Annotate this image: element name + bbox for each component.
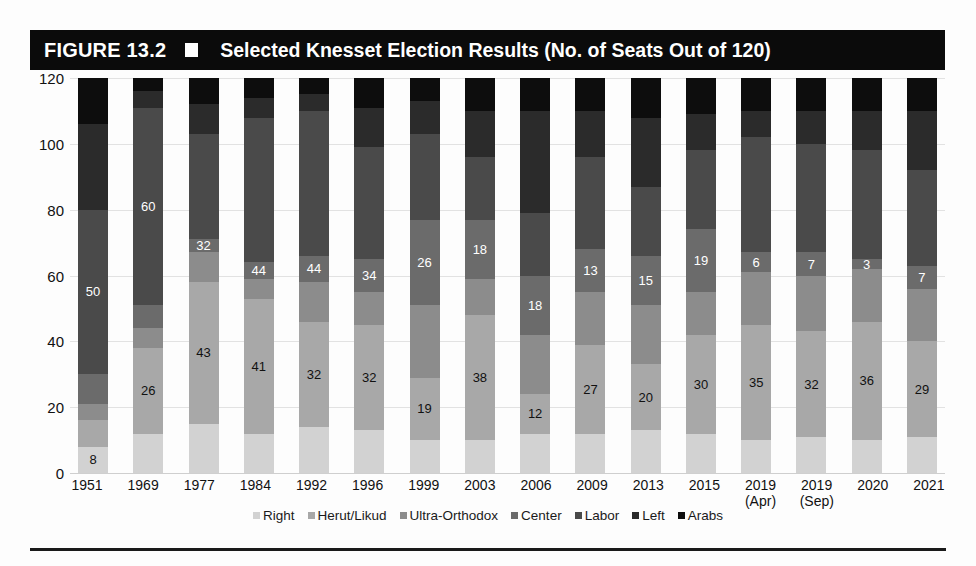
bar-column[interactable]: 729	[905, 78, 939, 473]
bar-segment[interactable]: 50	[78, 210, 108, 375]
bar-column[interactable]: 508	[76, 78, 110, 473]
bar-segment[interactable]: 13	[575, 249, 605, 292]
bar-column[interactable]: 3243	[187, 78, 221, 473]
bar-segment[interactable]	[631, 78, 661, 118]
bar-segment[interactable]: 18	[520, 276, 550, 335]
bar-segment[interactable]	[299, 78, 329, 94]
bar-segment[interactable]	[686, 150, 716, 229]
bar-segment[interactable]: 36	[852, 322, 882, 441]
bar-segment[interactable]	[465, 111, 495, 157]
legend-item[interactable]: Ultra-Orthodox	[400, 508, 499, 523]
bar-segment[interactable]: 44	[244, 262, 274, 278]
bar-segment[interactable]: 34	[354, 259, 384, 292]
bar-segment[interactable]: 32	[189, 239, 219, 252]
bar-segment[interactable]: 32	[299, 322, 329, 427]
bar-segment[interactable]	[631, 305, 661, 364]
bar-segment[interactable]	[575, 434, 605, 474]
bar-segment[interactable]	[741, 137, 771, 252]
bar-segment[interactable]	[907, 437, 937, 473]
bar-column[interactable]: 2619	[408, 78, 442, 473]
bar-segment[interactable]	[852, 269, 882, 322]
bar-segment[interactable]: 60	[133, 108, 163, 306]
bar-segment[interactable]	[78, 78, 108, 124]
bar-column[interactable]: 1327	[573, 78, 607, 473]
bar-segment[interactable]	[244, 279, 274, 299]
bar-segment[interactable]: 43	[189, 282, 219, 424]
bar-segment[interactable]	[78, 124, 108, 210]
bar-segment[interactable]	[575, 157, 605, 249]
bar-segment[interactable]	[354, 78, 384, 108]
bar-segment[interactable]	[631, 430, 661, 473]
bar-segment[interactable]	[133, 434, 163, 474]
bar-segment[interactable]	[741, 111, 771, 137]
bar-segment[interactable]	[796, 144, 826, 253]
bar-segment[interactable]: 27	[575, 345, 605, 434]
bar-segment[interactable]	[796, 111, 826, 144]
bar-column[interactable]: 1520	[629, 78, 663, 473]
bar-segment[interactable]	[244, 434, 274, 474]
bar-segment[interactable]	[741, 440, 771, 473]
bar-segment[interactable]: 30	[686, 335, 716, 434]
bar-segment[interactable]: 18	[465, 220, 495, 279]
bar-segment[interactable]	[410, 78, 440, 101]
bar-segment[interactable]	[686, 114, 716, 150]
bar-segment[interactable]	[907, 170, 937, 265]
bar-column[interactable]: 4432	[297, 78, 331, 473]
bar-segment[interactable]	[133, 328, 163, 348]
bar-segment[interactable]	[575, 78, 605, 111]
bar-segment[interactable]	[852, 150, 882, 259]
bar-segment[interactable]: 6	[741, 252, 771, 272]
bar-segment[interactable]	[354, 108, 384, 148]
bar-segment[interactable]	[189, 78, 219, 104]
bar-segment[interactable]: 41	[244, 299, 274, 434]
bar-segment[interactable]	[244, 78, 274, 98]
legend-item[interactable]: Herut/Likud	[308, 508, 387, 523]
bar-segment[interactable]	[244, 98, 274, 118]
bar-segment[interactable]: 32	[796, 331, 826, 436]
bar-column[interactable]: 635	[739, 78, 773, 473]
bar-segment[interactable]	[852, 111, 882, 151]
bar-segment[interactable]: 19	[686, 229, 716, 292]
bar-segment[interactable]: 38	[465, 315, 495, 440]
bar-segment[interactable]	[78, 420, 108, 446]
bar-segment[interactable]	[686, 434, 716, 474]
bar-segment[interactable]	[852, 78, 882, 111]
bar-segment[interactable]	[354, 147, 384, 259]
bar-segment[interactable]	[410, 440, 440, 473]
bar-segment[interactable]	[299, 94, 329, 110]
bar-segment[interactable]	[686, 78, 716, 114]
bar-segment[interactable]	[575, 111, 605, 157]
bar-segment[interactable]	[520, 434, 550, 474]
bar-segment[interactable]: 32	[354, 325, 384, 430]
bar-segment[interactable]	[907, 289, 937, 342]
bar-segment[interactable]	[189, 104, 219, 134]
bar-column[interactable]: 3432	[352, 78, 386, 473]
bar-segment[interactable]	[575, 292, 605, 345]
bar-segment[interactable]	[465, 78, 495, 111]
bar-segment[interactable]	[520, 335, 550, 394]
bar-segment[interactable]: 8	[78, 447, 108, 473]
bar-segment[interactable]: 7	[796, 252, 826, 275]
bar-column[interactable]: 336	[850, 78, 884, 473]
bar-segment[interactable]	[631, 187, 661, 256]
bar-segment[interactable]: 29	[907, 341, 937, 436]
legend-item[interactable]: Arabs	[678, 508, 723, 523]
bar-segment[interactable]	[410, 101, 440, 134]
bar-segment[interactable]	[465, 157, 495, 220]
bar-segment[interactable]	[299, 427, 329, 473]
bar-segment[interactable]: 26	[410, 220, 440, 306]
bar-segment[interactable]	[741, 78, 771, 111]
legend-item[interactable]: Labor	[575, 508, 620, 523]
bar-segment[interactable]	[852, 440, 882, 473]
bar-segment[interactable]	[520, 78, 550, 111]
bar-segment[interactable]	[244, 118, 274, 263]
bar-segment[interactable]	[354, 430, 384, 473]
bar-segment[interactable]	[299, 282, 329, 322]
bar-segment[interactable]	[299, 111, 329, 256]
bar-segment[interactable]: 26	[133, 348, 163, 434]
bar-column[interactable]: 732	[794, 78, 828, 473]
bar-segment[interactable]	[686, 292, 716, 335]
bar-segment[interactable]	[354, 292, 384, 325]
bar-segment[interactable]: 35	[741, 325, 771, 440]
bar-segment[interactable]	[907, 78, 937, 111]
